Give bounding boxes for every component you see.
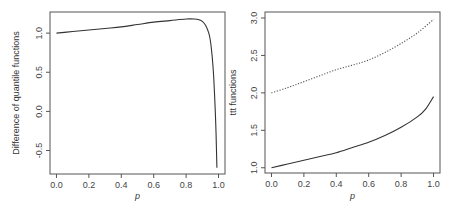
- x-tick-label: 0.2: [298, 179, 311, 189]
- y-tick-label: 1.0: [249, 162, 259, 175]
- series-line-ttt-solid: [271, 97, 433, 168]
- y-tick-label: 0.5: [34, 66, 44, 79]
- series-line-ttt-dotted: [271, 19, 433, 92]
- y-tick-label: 2.5: [249, 49, 259, 62]
- x-tick-label: 0.6: [362, 179, 375, 189]
- y-tick-label: 0.0: [34, 105, 44, 118]
- x-tick-label: 1.0: [212, 180, 225, 190]
- y-tick-label: 1.5: [249, 124, 259, 137]
- plot-frame: [50, 12, 225, 174]
- x-tick-label: 1.0: [427, 179, 440, 189]
- y-tick-label: 1.0: [34, 27, 44, 40]
- x-tick-label: 0.6: [147, 180, 160, 190]
- series-line-difference: [56, 19, 216, 168]
- x-tick-label: 0.4: [330, 179, 343, 189]
- x-tick-label: 0.8: [180, 180, 193, 190]
- figure: 0.00.20.40.60.81.0-0.50.00.51.0pDifferen…: [0, 0, 462, 212]
- right-panel-ttt-functions: 0.00.20.40.60.81.01.01.52.02.53.0pttt fu…: [228, 12, 440, 201]
- x-axis-label: p: [349, 191, 355, 201]
- y-axis-label: Difference of quantile functions: [11, 31, 21, 155]
- x-tick-label: 0.4: [115, 180, 128, 190]
- y-tick-label: -0.5: [34, 143, 44, 159]
- x-axis-label: p: [134, 191, 140, 201]
- left-panel-quantile-difference: 0.00.20.40.60.81.0-0.50.00.51.0pDifferen…: [11, 12, 225, 201]
- x-tick-label: 0.8: [395, 179, 408, 189]
- x-tick-label: 0.0: [265, 179, 278, 189]
- y-axis-label: ttt functions: [228, 69, 238, 116]
- y-tick-label: 3.0: [249, 12, 259, 25]
- y-tick-label: 2.0: [249, 87, 259, 100]
- plot-frame: [265, 12, 440, 173]
- x-tick-label: 0.0: [50, 180, 63, 190]
- x-tick-label: 0.2: [83, 180, 96, 190]
